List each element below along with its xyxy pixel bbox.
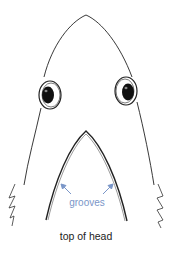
shark-head-diagram xyxy=(0,0,178,253)
groove-arrow-left-icon xyxy=(61,184,71,194)
right-body-outline xyxy=(137,102,154,185)
grooves-label: grooves xyxy=(69,197,105,208)
right-gill-slits-icon xyxy=(157,184,163,228)
left-gill-slits-icon xyxy=(9,184,15,226)
snout-outline xyxy=(44,15,132,77)
left-eye xyxy=(39,81,61,109)
left-body-outline xyxy=(24,108,41,185)
diagram-caption: top of head xyxy=(60,230,113,242)
right-eye xyxy=(115,77,137,105)
groove-arrow-right-icon xyxy=(103,184,113,194)
